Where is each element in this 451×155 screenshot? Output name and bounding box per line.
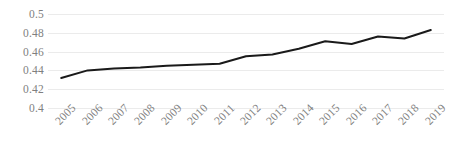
series-layer xyxy=(48,14,444,108)
y-axis-tick-label: 0.48 xyxy=(23,27,44,39)
y-axis-tick-label: 0.4 xyxy=(29,102,44,114)
x-axis-tick-labels: 2005200620072008200920102011201220132014… xyxy=(48,108,444,155)
y-axis-tick-label: 0.5 xyxy=(29,8,44,20)
y-axis-tick-label: 0.46 xyxy=(23,46,44,58)
data-series-line xyxy=(61,30,431,78)
y-axis-tick-labels: 0.5 0.48 0.46 0.44 0.42 0.4 xyxy=(0,0,48,155)
line-chart: 0.5 0.48 0.46 0.44 0.42 0.4 200520062007… xyxy=(0,0,451,155)
y-axis-tick-label: 0.44 xyxy=(23,64,44,76)
y-axis-tick-label: 0.42 xyxy=(23,83,44,95)
plot-area xyxy=(48,14,444,108)
